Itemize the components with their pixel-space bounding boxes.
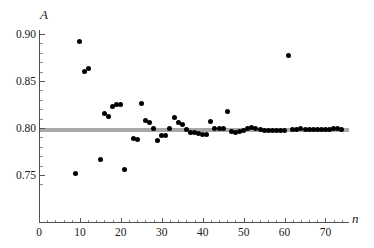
y-tick-major	[40, 128, 45, 129]
x-tick-label: 60	[270, 226, 300, 238]
x-tick-minor	[145, 220, 146, 222]
x-tick-major	[203, 218, 204, 222]
x-tick-minor	[178, 220, 179, 222]
x-tick-minor	[268, 220, 269, 222]
x-tick-minor	[227, 220, 228, 222]
x-tick-label: 40	[188, 226, 218, 238]
x-tick-minor	[96, 220, 97, 222]
scatter-plot-figure: 0.750.800.850.90010203040506070 A n	[0, 0, 374, 248]
y-tick-minor	[40, 53, 43, 54]
y-tick-label: 0.90	[8, 28, 36, 40]
data-point	[163, 133, 168, 138]
data-point	[225, 109, 230, 114]
x-tick-major	[121, 218, 122, 222]
y-axis-title: A	[40, 8, 48, 22]
x-tick-major	[285, 218, 286, 222]
data-point	[204, 132, 209, 137]
x-tick-minor	[186, 220, 187, 222]
y-tick-minor	[40, 119, 43, 120]
y-tick-minor	[40, 156, 43, 157]
x-tick-label: 20	[106, 226, 136, 238]
y-tick-label: 0.75	[8, 169, 36, 181]
y-tick-major	[40, 175, 45, 176]
data-point	[135, 137, 140, 142]
x-tick-label: 70	[310, 226, 340, 238]
data-point	[122, 167, 127, 172]
x-tick-minor	[88, 220, 89, 222]
data-point	[221, 126, 226, 131]
y-tick-minor	[40, 137, 43, 138]
y-tick-minor	[40, 147, 43, 148]
y-tick-minor	[40, 184, 43, 185]
x-tick-minor	[170, 220, 171, 222]
x-tick-label: 10	[65, 226, 95, 238]
data-point	[77, 39, 82, 44]
data-point	[151, 126, 156, 131]
x-tick-minor	[154, 220, 155, 222]
x-tick-major	[39, 218, 40, 222]
y-tick-minor	[40, 90, 43, 91]
x-tick-minor	[293, 220, 294, 222]
y-tick-minor	[40, 72, 43, 73]
data-point	[180, 122, 185, 127]
x-tick-minor	[72, 220, 73, 222]
y-tick-major	[40, 34, 45, 35]
data-point	[208, 119, 213, 124]
x-tick-minor	[309, 220, 310, 222]
x-tick-minor	[342, 220, 343, 222]
data-point	[155, 138, 160, 143]
x-tick-major	[325, 218, 326, 222]
x-tick-major	[80, 218, 81, 222]
y-tick-minor	[40, 43, 43, 44]
data-point	[73, 171, 78, 176]
x-tick-minor	[113, 220, 114, 222]
y-tick-minor	[40, 166, 43, 167]
x-tick-minor	[211, 220, 212, 222]
x-axis-line	[39, 222, 349, 223]
x-axis-title: n	[352, 212, 359, 226]
data-point	[172, 115, 177, 120]
x-tick-minor	[219, 220, 220, 222]
y-axis-line	[39, 30, 40, 223]
x-tick-minor	[47, 220, 48, 222]
x-tick-minor	[334, 220, 335, 222]
x-tick-minor	[260, 220, 261, 222]
x-tick-minor	[195, 220, 196, 222]
y-tick-minor	[40, 100, 43, 101]
x-tick-major	[244, 218, 245, 222]
data-point	[98, 157, 103, 162]
x-tick-minor	[252, 220, 253, 222]
x-tick-label: 50	[229, 226, 259, 238]
data-point	[118, 102, 123, 107]
y-tick-minor	[40, 109, 43, 110]
x-tick-minor	[129, 220, 130, 222]
x-tick-minor	[317, 220, 318, 222]
x-tick-major	[162, 218, 163, 222]
data-point	[147, 120, 152, 125]
x-tick-minor	[235, 220, 236, 222]
x-tick-minor	[64, 220, 65, 222]
x-tick-label: 0	[24, 226, 54, 238]
y-tick-minor	[40, 62, 43, 63]
y-tick-major	[40, 81, 45, 82]
data-point	[106, 114, 111, 119]
x-tick-label: 30	[147, 226, 177, 238]
data-point	[139, 101, 144, 106]
x-tick-minor	[55, 220, 56, 222]
x-tick-minor	[137, 220, 138, 222]
data-point	[286, 53, 291, 58]
data-point	[282, 128, 287, 133]
x-tick-minor	[301, 220, 302, 222]
data-point	[86, 66, 91, 71]
y-tick-label: 0.85	[8, 75, 36, 87]
x-tick-minor	[104, 220, 105, 222]
x-tick-minor	[276, 220, 277, 222]
y-tick-label: 0.80	[8, 122, 36, 134]
